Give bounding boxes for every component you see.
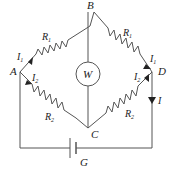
circuit-svg: A B C D G W R1 R1 R2 R2 I1 I2 I1 I2 I: [0, 0, 175, 170]
resistor-AB-label: R1: [41, 31, 51, 43]
meter-W-label: W: [83, 68, 93, 80]
resistor-BD: [94, 12, 152, 72]
current-arrow-I1-A-icon: [28, 57, 33, 65]
current-I2-A-label: I2: [31, 72, 38, 84]
resistor-BD-label: R1: [122, 27, 132, 39]
current-I-label: I: [157, 95, 162, 106]
node-A-label: A: [9, 65, 17, 77]
resistor-AC-label: R2: [44, 111, 54, 123]
node-D-label: D: [157, 65, 166, 77]
resistor-CD-label: R2: [124, 108, 134, 120]
battery-G-label: G: [80, 156, 88, 168]
current-I2-D-label: I2: [133, 71, 140, 83]
battery-icon: [70, 138, 76, 158]
current-I1-D-label: I1: [149, 53, 156, 65]
current-I1-A-label: I1: [16, 51, 23, 63]
current-arrow-icon: [148, 97, 156, 104]
current-arrow-I2-D-icon: [144, 74, 149, 82]
node-B-label: B: [87, 0, 94, 11]
wheatstone-bridge-diagram: A B C D G W R1 R1 R2 R2 I1 I2 I1 I2 I: [0, 0, 175, 170]
node-C-label: C: [91, 128, 99, 140]
